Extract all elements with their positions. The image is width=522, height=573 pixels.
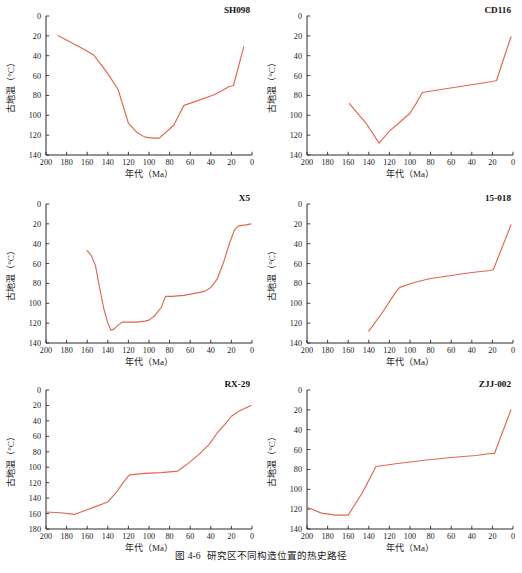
x-tick-label: 160	[81, 346, 93, 355]
chart-panel-15-018: 2001801601401201008060402000204060801001…	[261, 188, 522, 378]
x-tick-label: 80	[427, 158, 435, 167]
x-tick-label: 20	[227, 532, 235, 541]
thermal-history-curve	[87, 224, 251, 330]
y-tick-label: 80	[294, 279, 302, 288]
y-tick-label: 40	[294, 426, 302, 435]
y-tick-label: 0	[37, 386, 41, 395]
y-tick-label: 120	[29, 479, 41, 488]
y-tick-label: 80	[33, 448, 41, 457]
x-tick-label: 100	[143, 158, 155, 167]
x-tick-label: 120	[122, 346, 134, 355]
chart-panel-cd116: 2001801601401201008060402000204060801001…	[261, 0, 522, 190]
x-tick-label: 0	[250, 158, 254, 167]
panel-title: 15-018	[485, 193, 511, 203]
x-tick-label: 200	[40, 346, 52, 355]
x-tick-label: 60	[186, 346, 194, 355]
y-tick-label: 40	[33, 240, 41, 249]
x-tick-label: 60	[447, 532, 455, 541]
y-tick-label: 20	[33, 220, 41, 229]
x-tick-label: 120	[383, 158, 395, 167]
panel-title: RX-29	[224, 379, 250, 389]
y-tick-label: 120	[29, 131, 41, 140]
y-tick-label: 100	[29, 463, 41, 472]
x-axis-title: 年代（Ma）	[386, 356, 434, 367]
y-tick-label: 100	[290, 299, 302, 308]
chart-svg-x5: 2001801601401201008060402000204060801001…	[0, 188, 261, 378]
x-tick-label: 20	[488, 346, 496, 355]
y-axis-title: 古地温（°C）	[266, 432, 277, 487]
x-tick-label: 80	[427, 346, 435, 355]
x-tick-label: 160	[342, 158, 354, 167]
x-tick-label: 0	[250, 532, 254, 541]
x-tick-label: 200	[40, 158, 52, 167]
x-tick-label: 180	[60, 532, 72, 541]
figure-thermal-history-paths: 2001801601401201008060402000204060801001…	[0, 0, 522, 573]
y-axis-title: 古地温（°C）	[266, 246, 277, 301]
panel-title: X5	[239, 193, 251, 203]
x-tick-label: 80	[166, 346, 174, 355]
y-tick-label: 0	[298, 200, 302, 209]
chart-svg-sh098: 2001801601401201008060402000204060801001…	[0, 0, 261, 190]
y-tick-label: 80	[33, 91, 41, 100]
x-tick-label: 20	[488, 532, 496, 541]
x-tick-label: 60	[447, 158, 455, 167]
x-tick-label: 160	[81, 532, 93, 541]
x-tick-label: 60	[186, 158, 194, 167]
y-tick-label: 60	[294, 260, 302, 269]
y-tick-label: 120	[29, 319, 41, 328]
y-tick-label: 140	[290, 525, 302, 534]
figure-caption-number: 图 4-6	[175, 550, 200, 561]
y-tick-label: 20	[33, 32, 41, 41]
y-tick-label: 100	[29, 111, 41, 120]
chart-panel-sh098: 2001801601401201008060402000204060801001…	[0, 0, 261, 190]
x-tick-label: 0	[250, 346, 254, 355]
x-tick-label: 80	[427, 532, 435, 541]
chart-panel-zjj-002: 2001801601401201008060402000204060801001…	[261, 374, 522, 564]
y-axis-title: 古地温（°C）	[266, 58, 277, 113]
x-tick-label: 120	[122, 158, 134, 167]
y-tick-label: 40	[294, 52, 302, 61]
x-tick-label: 0	[511, 158, 515, 167]
figure-caption: 图 4-6研究区不同构造位置的热史路径	[0, 548, 522, 562]
chart-svg-zjj-002: 2001801601401201008060402000204060801001…	[261, 374, 522, 564]
y-tick-label: 20	[294, 32, 302, 41]
y-tick-label: 100	[290, 485, 302, 494]
thermal-history-curve	[349, 37, 511, 143]
y-tick-label: 0	[37, 200, 41, 209]
y-tick-label: 60	[294, 72, 302, 81]
x-tick-label: 140	[102, 346, 114, 355]
thermal-history-curve	[307, 410, 511, 515]
y-tick-label: 140	[29, 151, 41, 160]
x-tick-label: 180	[321, 346, 333, 355]
y-tick-label: 80	[294, 465, 302, 474]
y-tick-label: 120	[290, 131, 302, 140]
x-tick-label: 60	[447, 346, 455, 355]
y-tick-label: 60	[294, 446, 302, 455]
panel-title: CD116	[484, 5, 511, 15]
y-tick-label: 0	[298, 386, 302, 395]
x-tick-label: 100	[404, 346, 416, 355]
chart-svg-rx-29: 2001801601401201008060402000204060801001…	[0, 374, 261, 564]
x-tick-label: 200	[301, 346, 313, 355]
y-tick-label: 160	[29, 510, 41, 519]
x-tick-label: 80	[166, 532, 174, 541]
y-axis-title: 古地温（°C）	[5, 246, 16, 301]
y-tick-label: 140	[29, 339, 41, 348]
x-tick-label: 200	[301, 532, 313, 541]
y-tick-label: 60	[33, 260, 41, 269]
x-tick-label: 40	[468, 532, 476, 541]
y-tick-label: 40	[294, 240, 302, 249]
y-tick-label: 80	[294, 91, 302, 100]
x-tick-label: 120	[122, 532, 134, 541]
y-tick-label: 20	[33, 401, 41, 410]
x-tick-label: 20	[227, 346, 235, 355]
x-tick-label: 120	[383, 532, 395, 541]
x-tick-label: 40	[207, 346, 215, 355]
y-tick-label: 120	[290, 319, 302, 328]
y-axis-title: 古地温（°C）	[5, 432, 16, 487]
y-tick-label: 60	[33, 72, 41, 81]
x-tick-label: 200	[301, 158, 313, 167]
y-tick-label: 0	[298, 12, 302, 21]
y-tick-label: 40	[33, 52, 41, 61]
y-tick-label: 140	[290, 151, 302, 160]
